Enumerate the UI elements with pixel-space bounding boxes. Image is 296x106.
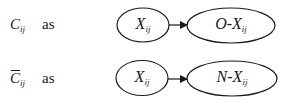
node-label-o-x-ij: O-Xij	[187, 15, 275, 34]
as-label-row2: as	[42, 70, 55, 87]
as-label-row1: as	[42, 16, 55, 33]
node-label-x-ij-row2: Xij	[116, 68, 168, 87]
node-label-x-ij-row1: Xij	[117, 15, 169, 34]
symbol-c-bar-ij: Cij	[10, 70, 25, 88]
node-label-n-x-ij: N-Xij	[187, 68, 277, 87]
diagram-canvas: Cij as Xij O-Xij Cij as Xij N-Xij	[0, 0, 296, 106]
symbol-c-ij: Cij	[10, 16, 25, 34]
